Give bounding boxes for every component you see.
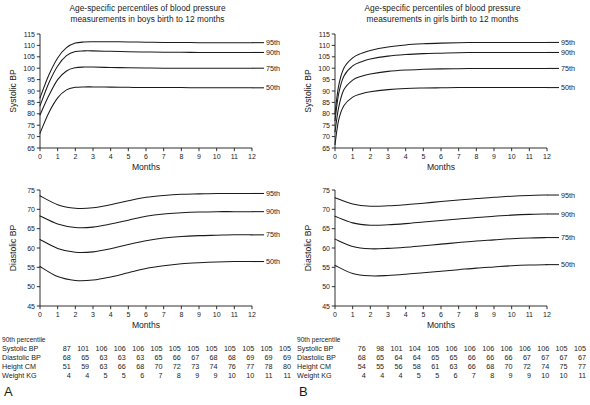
table-girls-grid: Systolic BP76981011041051061061061061061… [297, 345, 586, 381]
table-boys: 90th percentile Systolic BP8710110610610… [2, 336, 293, 381]
panel-boys-title-line1: Age-specific percentiles of blood pressu… [0, 3, 295, 14]
y-tick-label: 65 [322, 145, 330, 152]
percentile-curve-90th [335, 214, 547, 225]
x-tick-label: 7 [457, 311, 461, 318]
percentile-curve-75th [40, 67, 252, 115]
x-tick-label: 4 [109, 311, 113, 318]
table-cell: 11 [273, 372, 291, 381]
y-tick-label: 50 [322, 283, 330, 290]
percentile-label-75th: 75th [561, 233, 575, 242]
panel-boys-title: Age-specific percentiles of blood pressu… [0, 3, 295, 25]
y-tick-label: 110 [319, 42, 330, 49]
table-row: Weight KG4445567899101011 [297, 372, 586, 381]
chart-boys-systolic-svg: 6570758085909510010511011501234567891011… [0, 26, 295, 176]
percentile-curve-90th [335, 52, 547, 120]
x-tick-label: 6 [439, 153, 443, 160]
table-cell: 9 [513, 372, 531, 381]
table-cell: 4 [71, 372, 89, 381]
y-tick-label: 80 [27, 110, 35, 117]
x-tick-label: 9 [492, 153, 496, 160]
x-tick-label: 6 [144, 311, 148, 318]
x-tick-label: 11 [526, 311, 533, 318]
y-tick-label: 45 [322, 303, 330, 310]
x-tick-label: 10 [508, 153, 516, 160]
percentile-label-95th: 95th [266, 38, 280, 47]
percentile-label-75th: 75th [266, 64, 280, 73]
table-cell: 4 [347, 372, 365, 381]
percentile-label-50th: 50th [266, 257, 280, 266]
percentile-curve-95th [335, 195, 547, 206]
chart-boys-diastolic-svg: 455055606570750123456789101112MonthsDias… [0, 182, 295, 334]
table-cell: 9 [181, 372, 199, 381]
table-cell: 5 [89, 372, 107, 381]
x-tick-label: 12 [248, 311, 256, 318]
percentile-curve-50th [40, 262, 252, 281]
table-cell: 5 [402, 372, 420, 381]
percentile-curve-75th [40, 235, 252, 253]
y-tick-label: 55 [27, 264, 35, 271]
y-tick-label: 65 [27, 225, 35, 232]
percentile-label-50th: 50th [561, 83, 575, 92]
y-axis-title: Systolic BP [8, 69, 18, 113]
panel-boys-title-line2: measurements in boys birth to 12 months [0, 14, 295, 25]
percentile-label-95th: 95th [561, 191, 575, 200]
y-tick-label: 75 [27, 122, 35, 129]
table-boys-grid: Systolic BP87101106106106105105105105105… [2, 345, 291, 381]
percentile-label-90th: 90th [266, 207, 280, 216]
y-tick-label: 95 [27, 76, 35, 83]
y-tick-label: 45 [27, 303, 35, 310]
percentile-label-75th: 75th [561, 64, 575, 73]
percentile-curve-90th [40, 212, 252, 228]
y-tick-label: 90 [27, 88, 35, 95]
y-tick-label: 50 [27, 283, 35, 290]
x-tick-label: 2 [368, 153, 372, 160]
x-tick-label: 11 [231, 153, 238, 160]
percentile-label-50th: 50th [561, 260, 575, 269]
y-tick-label: 85 [322, 99, 330, 106]
table-cell: 11 [568, 372, 586, 381]
y-tick-label: 60 [27, 245, 35, 252]
table-cell: 4 [366, 372, 384, 381]
table-cell: 9 [494, 372, 512, 381]
x-axis-title: Months [132, 162, 160, 172]
percentile-curve-50th [335, 265, 547, 276]
percentile-curve-50th [335, 88, 547, 145]
x-tick-label: 12 [543, 311, 551, 318]
table-cell: 4 [52, 372, 70, 381]
table-cell: 11 [254, 372, 272, 381]
x-tick-label: 10 [213, 153, 221, 160]
panel-letter-a: A [4, 384, 13, 399]
x-tick-label: 9 [197, 311, 201, 318]
x-tick-label: 2 [368, 311, 372, 318]
table-cell: 8 [476, 372, 494, 381]
x-tick-label: 8 [474, 311, 478, 318]
y-tick-label: 75 [27, 187, 35, 194]
table-cell: 7 [144, 372, 162, 381]
chart-girls-diastolic-svg: 455055606570750123456789101112MonthsDias… [295, 182, 590, 334]
x-tick-label: 8 [474, 153, 478, 160]
panel-girls-title-line2: measurements in girls birth to 12 months [295, 14, 590, 25]
y-tick-label: 95 [322, 76, 330, 83]
x-tick-label: 9 [197, 153, 201, 160]
table-cell: 8 [163, 372, 181, 381]
x-tick-label: 5 [126, 153, 130, 160]
x-tick-label: 5 [421, 311, 425, 318]
y-tick-label: 90 [322, 88, 330, 95]
x-tick-label: 0 [38, 153, 42, 160]
x-tick-label: 6 [144, 153, 148, 160]
x-tick-label: 2 [73, 311, 77, 318]
table-cell: 9 [199, 372, 217, 381]
x-tick-label: 12 [248, 153, 256, 160]
x-tick-label: 1 [351, 311, 355, 318]
y-tick-label: 70 [322, 206, 330, 213]
x-tick-label: 11 [526, 153, 533, 160]
table-cell: 10 [218, 372, 236, 381]
x-tick-label: 4 [404, 153, 408, 160]
chart-boys-systolic: 6570758085909510010511011501234567891011… [0, 26, 295, 176]
x-tick-label: 0 [333, 311, 337, 318]
y-tick-label: 70 [27, 133, 35, 140]
chart-girls-systolic-svg: 6570758085909510010511011501234567891011… [295, 26, 590, 176]
x-tick-label: 3 [386, 311, 390, 318]
table-row: Weight KG44556789910101111 [2, 372, 291, 381]
percentile-curve-75th [335, 238, 547, 249]
